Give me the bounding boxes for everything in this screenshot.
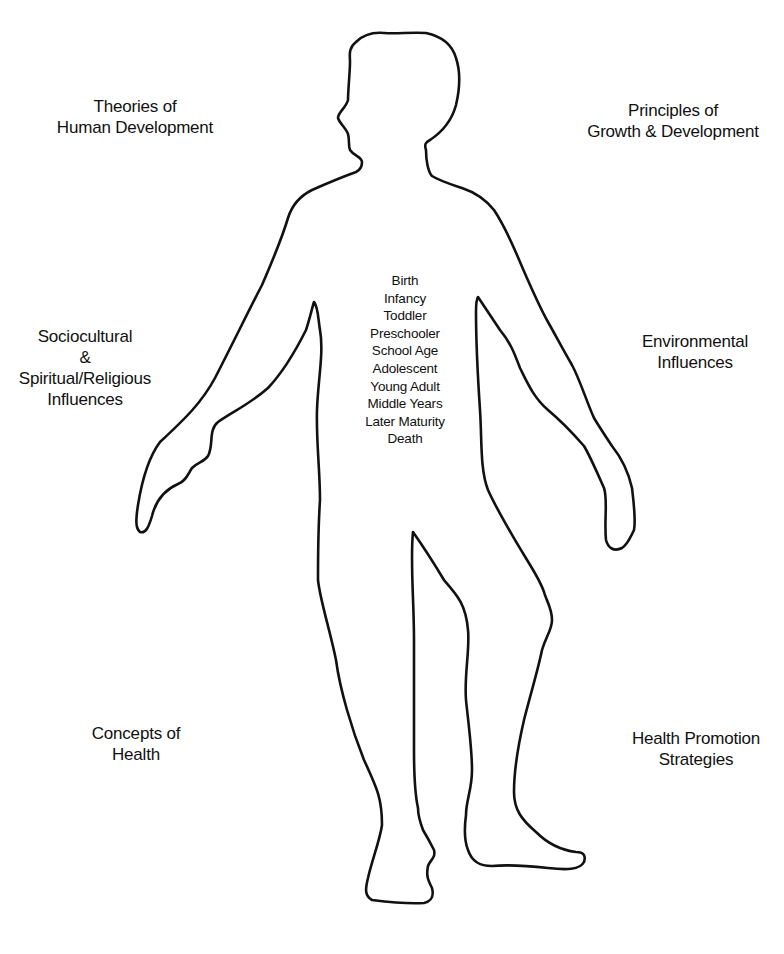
label-line: Influences	[2, 389, 168, 410]
label-line: Spiritual/Religious	[2, 368, 168, 389]
life-stages-list: Birth Infancy Toddler Preschooler School…	[345, 272, 465, 448]
label-line: Growth & Development	[566, 121, 780, 142]
life-stage-young-adult: Young Adult	[345, 378, 465, 396]
life-stage-birth: Birth	[345, 272, 465, 290]
life-stage-adolescent: Adolescent	[345, 360, 465, 378]
label-line: Theories of	[40, 96, 230, 117]
label-health-promotion-strategies: Health Promotion Strategies	[614, 728, 778, 770]
label-line: Environmental	[626, 331, 764, 352]
label-concepts-of-health: Concepts of Health	[80, 723, 192, 765]
label-principles-of-growth-and-development: Principles of Growth & Development	[566, 100, 780, 142]
life-stage-later-maturity: Later Maturity	[345, 413, 465, 431]
label-line: &	[2, 347, 168, 368]
label-environmental-influences: Environmental Influences	[626, 331, 764, 373]
life-stage-infancy: Infancy	[345, 290, 465, 308]
human-body-outline	[0, 0, 784, 954]
label-line: Concepts of	[80, 723, 192, 744]
life-stage-preschooler: Preschooler	[345, 325, 465, 343]
label-line: Influences	[626, 352, 764, 373]
label-theories-of-human-development: Theories of Human Development	[40, 96, 230, 138]
label-line: Human Development	[40, 117, 230, 138]
label-line: Principles of	[566, 100, 780, 121]
life-stage-middle-years: Middle Years	[345, 395, 465, 413]
label-line: Sociocultural	[2, 326, 168, 347]
label-line: Health	[80, 744, 192, 765]
life-stage-school-age: School Age	[345, 342, 465, 360]
life-stage-toddler: Toddler	[345, 307, 465, 325]
body-silhouette-path	[136, 33, 634, 904]
label-line: Strategies	[614, 749, 778, 770]
label-sociocultural-spiritual-religious-influences: Sociocultural & Spiritual/Religious Infl…	[2, 326, 168, 410]
life-stage-death: Death	[345, 430, 465, 448]
label-line: Health Promotion	[614, 728, 778, 749]
